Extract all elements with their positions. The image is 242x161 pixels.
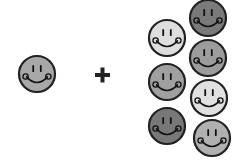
smiley-face-icon <box>149 64 185 100</box>
smiley-face-icon <box>191 80 227 116</box>
plus-sign-icon <box>95 68 110 83</box>
left-face-group <box>19 56 55 92</box>
smiley-face-icon <box>194 120 230 156</box>
right-face-group <box>149 0 230 156</box>
smiley-face-icon <box>149 20 185 56</box>
smiley-face-icon <box>19 56 55 92</box>
diagram-canvas <box>0 0 242 161</box>
smiley-face-icon <box>190 0 226 36</box>
smiley-face-icon <box>190 40 226 76</box>
smiley-face-icon <box>149 108 185 144</box>
